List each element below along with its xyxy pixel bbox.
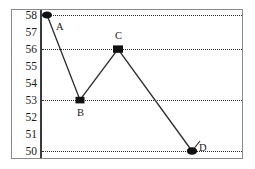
data-point-a [42, 11, 52, 18]
y-tick-label: 53 [26, 95, 38, 107]
point-label-c: C [115, 31, 122, 42]
point-label-b: B [77, 108, 84, 119]
plot-area: A B C D [42, 10, 242, 158]
point-label-d: D [199, 143, 207, 154]
y-tick-label: 56 [26, 44, 38, 56]
y-axis-tick-labels: 58 57 56 55 54 53 52 51 50 [12, 10, 39, 158]
y-tick-label: 51 [26, 129, 38, 141]
chart-screenshot: 58 57 56 55 54 53 52 51 50 A B C D [0, 0, 255, 169]
data-series-line [42, 10, 242, 158]
y-tick-label: 52 [26, 112, 38, 124]
data-point-c [113, 45, 123, 52]
point-label-a: A [56, 22, 64, 33]
y-tick-label: 58 [26, 10, 38, 22]
data-point-d [187, 147, 197, 155]
y-tick-label: 57 [26, 27, 38, 39]
y-tick-label: 54 [26, 78, 38, 90]
y-tick-label: 50 [26, 146, 38, 158]
y-tick-label: 55 [26, 61, 38, 73]
data-point-b [76, 97, 85, 104]
